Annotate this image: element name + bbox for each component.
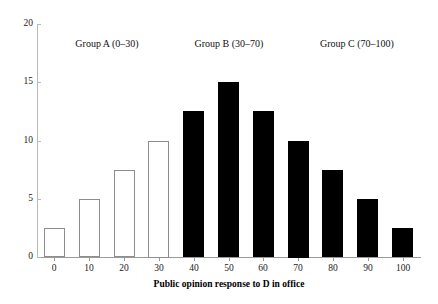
y-tick-label-text: 10 xyxy=(11,136,33,146)
x-tick-mark xyxy=(229,257,230,261)
x-tick-label: 90 xyxy=(348,263,388,274)
x-tick-mark xyxy=(333,257,334,261)
bar xyxy=(44,228,65,257)
x-tick-mark xyxy=(263,257,264,261)
x-tick-mark xyxy=(403,257,404,261)
y-tick-mark xyxy=(37,82,41,83)
bar xyxy=(322,170,343,257)
x-tick-label: 40 xyxy=(174,263,214,274)
bar xyxy=(253,111,274,257)
bar xyxy=(288,141,309,258)
y-tick-label: 5 xyxy=(0,194,33,204)
y-tick-label: 10 xyxy=(0,136,33,146)
chart-figure: 05101520 0102030405060708090100 Group A … xyxy=(0,0,438,304)
bar xyxy=(79,199,100,257)
x-axis-title: Public opinion response to D in office xyxy=(37,278,421,290)
y-tick-label-text: 5 xyxy=(11,194,33,204)
y-tick-label: 15 xyxy=(0,77,33,87)
x-tick-label: 100 xyxy=(383,263,423,274)
group-annotation-label: Group C (70–100) xyxy=(320,38,394,50)
bar xyxy=(357,199,378,257)
group-annotation-label: Group B (30–70) xyxy=(195,38,264,50)
x-tick-mark xyxy=(124,257,125,261)
y-tick-mark xyxy=(37,24,41,25)
bar xyxy=(392,228,413,257)
bar xyxy=(114,170,135,257)
group-annotation-label: Group A (0–30) xyxy=(75,38,138,50)
y-tick-label: 0 xyxy=(0,252,33,262)
bar xyxy=(218,82,239,257)
y-tick-mark xyxy=(37,257,41,258)
x-tick-mark xyxy=(54,257,55,261)
x-tick-mark xyxy=(194,257,195,261)
y-tick-label-text: 20 xyxy=(11,19,33,29)
x-tick-label: 20 xyxy=(104,263,144,274)
bar xyxy=(183,111,204,257)
bar xyxy=(148,141,169,258)
x-tick-label: 70 xyxy=(278,263,318,274)
y-tick-label-text: 15 xyxy=(11,77,33,87)
x-tick-mark xyxy=(89,257,90,261)
x-tick-label: 10 xyxy=(69,263,109,274)
y-tick-mark xyxy=(37,141,41,142)
y-tick-mark xyxy=(37,199,41,200)
x-tick-label: 0 xyxy=(34,263,74,274)
x-tick-label: 30 xyxy=(139,263,179,274)
y-tick-label: 20 xyxy=(0,19,33,29)
x-tick-label: 80 xyxy=(313,263,353,274)
x-tick-label: 60 xyxy=(243,263,283,274)
y-tick-label-text: 0 xyxy=(11,252,33,262)
x-tick-mark xyxy=(368,257,369,261)
